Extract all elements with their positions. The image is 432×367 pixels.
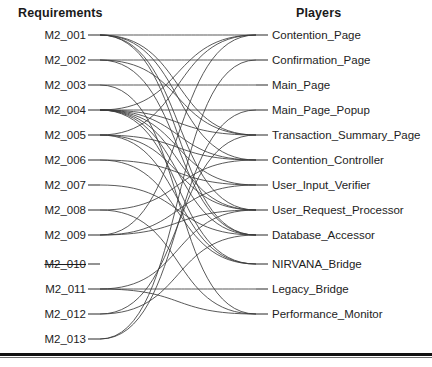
requirement-label-m2_001: M2_001 xyxy=(16,29,86,41)
edge-m2_003-to-p12 xyxy=(100,85,256,314)
edge-m2_013-to-p04 xyxy=(100,110,256,339)
bottom-rule-shadow xyxy=(0,357,432,358)
bottom-rule xyxy=(0,353,432,356)
edge-m2_008-to-p12 xyxy=(100,210,256,314)
edge-m2_004-to-p05 xyxy=(100,110,256,135)
edge-m2_011-to-p12 xyxy=(100,289,256,314)
requirement-label-m2_005: M2_005 xyxy=(16,129,86,141)
edge-m2_004-to-p08 xyxy=(100,110,256,210)
edge-m2_004-to-p07 xyxy=(100,110,256,185)
edge-m2_008-to-p06 xyxy=(100,160,256,210)
requirement-label-m2_011: M2_011 xyxy=(16,283,86,295)
player-label-performance_monitor: Performance_Monitor xyxy=(272,308,383,320)
player-label-confirmation_page: Confirmation_Page xyxy=(272,54,370,66)
requirement-label-m2_003: M2_003 xyxy=(16,79,86,91)
edge-m2_001-to-p08 xyxy=(100,35,256,210)
player-label-transaction_summary_page: Transaction_Summary_Page xyxy=(272,129,421,141)
edge-m2_004-to-p10 xyxy=(100,110,256,264)
requirement-label-m2_002: M2_002 xyxy=(16,54,86,66)
edge-m2_013-to-p02 xyxy=(100,60,256,339)
edge-m2_001-to-p09 xyxy=(100,35,256,235)
player-label-contention_controller: Contention_Controller xyxy=(272,154,384,166)
requirements-column-title: Requirements xyxy=(18,6,103,20)
player-label-user_request_processor: User_Request_Processor xyxy=(272,204,404,216)
edge-m2_004-to-p06 xyxy=(100,110,256,160)
edge-m2_004-to-p09 xyxy=(100,110,256,235)
edge-m2_012-to-p05 xyxy=(100,135,256,314)
player-label-nirvana_bridge: NIRVANA_Bridge xyxy=(272,258,362,270)
edge-m2_001-to-p05 xyxy=(100,35,256,135)
requirement-label-m2_007: M2_007 xyxy=(16,179,86,191)
player-label-main_page_popup: Main_Page_Popup xyxy=(272,104,370,116)
edge-m2_002-to-p05 xyxy=(100,60,256,135)
player-label-database_accessor: Database_Accessor xyxy=(272,229,375,241)
edge-m2_006-to-p07 xyxy=(100,160,256,185)
edge-m2_002-to-p09 xyxy=(100,60,256,235)
edge-m2_011-to-p08 xyxy=(100,210,256,289)
edge-m2_009-to-p08 xyxy=(100,210,256,235)
edge-m2_012-to-p09 xyxy=(100,235,256,314)
requirement-label-m2_004: M2_004 xyxy=(16,104,86,116)
edge-m2_004-to-p01 xyxy=(100,35,256,110)
requirement-label-m2_013: M2_013 xyxy=(16,333,86,345)
edge-m2_009-to-p01 xyxy=(100,35,256,235)
player-label-contention_page: Contention_Page xyxy=(272,29,361,41)
requirement-label-m2_008: M2_008 xyxy=(16,204,86,216)
edge-m2_009-to-p07 xyxy=(100,185,256,235)
edge-m2_001-to-p06 xyxy=(100,35,256,160)
edge-m2_007-to-p09 xyxy=(100,185,256,235)
player-label-user_input_verifier: User_Input_Verifier xyxy=(272,179,370,191)
edge-m2_005-to-p01 xyxy=(100,35,256,135)
edge-m2_005-to-p10 xyxy=(100,135,256,264)
requirement-label-m2_012: M2_012 xyxy=(16,308,86,320)
traceability-diagram: Requirements Players M2_001M2_002M2_003M… xyxy=(0,0,432,367)
player-label-main_page: Main_Page xyxy=(272,79,330,91)
players-column-title: Players xyxy=(296,6,341,20)
player-label-legacy_bridge: Legacy_Bridge xyxy=(272,283,349,295)
edge-m2_005-to-p08 xyxy=(100,135,256,210)
requirement-label-m2_009: M2_009 xyxy=(16,229,86,241)
edge-m2_005-to-p06 xyxy=(100,135,256,160)
requirement-label-m2_006: M2_006 xyxy=(16,154,86,166)
requirement-label-m2_010: M2_010 xyxy=(16,258,86,270)
edge-m2_006-to-p10 xyxy=(100,160,256,264)
